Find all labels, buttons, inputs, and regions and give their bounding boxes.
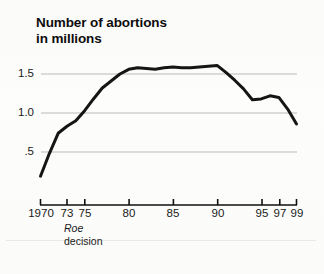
x-tick-label-75: 75 xyxy=(74,208,96,220)
chart-figure: Number of abortions in millions 1.5 1.0 xyxy=(0,0,324,274)
roe-annotation-line-1: Roe xyxy=(64,222,103,235)
x-tick-label-90: 90 xyxy=(207,208,229,220)
x-tick-label-1970: 1970 xyxy=(26,208,56,220)
y-tick-label-1-5: 1.5 xyxy=(4,68,34,80)
x-tick-label-99: 99 xyxy=(286,208,308,220)
abortions-trend-line xyxy=(41,65,297,176)
chart-plot-area xyxy=(0,0,324,274)
gridlines xyxy=(41,74,297,152)
x-axis-ticks xyxy=(41,199,297,205)
x-tick-label-80: 80 xyxy=(118,208,140,220)
y-tick-label-0-5: .5 xyxy=(4,146,34,158)
roe-decision-annotation: Roe decision xyxy=(64,222,103,247)
roe-annotation-line-2: decision xyxy=(64,235,103,248)
x-tick-label-85: 85 xyxy=(162,208,184,220)
y-tick-label-1-0: 1.0 xyxy=(4,107,34,119)
